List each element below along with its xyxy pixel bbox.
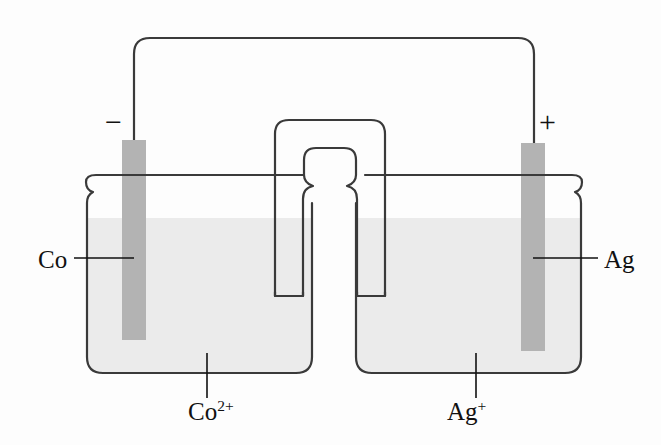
- solution-fills: [88, 218, 580, 373]
- silver-ion-solution: [357, 218, 580, 373]
- label-cobalt-ion-symbol: Co: [188, 398, 217, 425]
- external-circuit-wire: [134, 38, 534, 150]
- cobalt-electrode: [122, 140, 146, 340]
- wire-path: [134, 38, 534, 150]
- label-cobalt-electrode: Co: [38, 247, 67, 272]
- galvanic-cell-figure: Co Ag Co2+ Ag+ − +: [0, 0, 661, 445]
- label-silver-ion-solution: Ag+: [447, 399, 486, 424]
- label-negative-terminal: −: [105, 107, 122, 137]
- label-silver-ion-symbol: Ag: [447, 398, 478, 425]
- cell-diagram-canvas: [0, 0, 661, 445]
- label-cobalt-ion-charge: 2+: [217, 397, 234, 414]
- label-silver-electrode: Ag: [604, 247, 635, 272]
- label-cobalt-ion-solution: Co2+: [188, 399, 234, 424]
- label-positive-terminal: +: [539, 107, 556, 137]
- label-silver-ion-charge: +: [478, 397, 487, 414]
